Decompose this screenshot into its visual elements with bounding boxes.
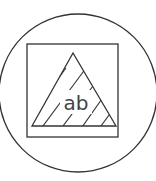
shape-text-icon: ab [0,0,156,181]
shape-label: ab [64,91,89,115]
triangle-shape [32,53,116,126]
